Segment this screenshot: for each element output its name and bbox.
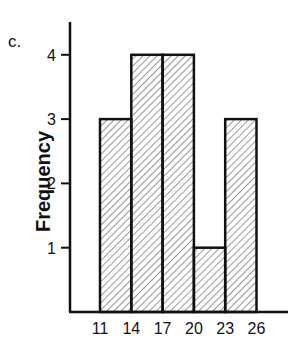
y-tick-label: 2 — [47, 175, 56, 192]
x-tick-label: 11 — [92, 320, 109, 337]
x-tick-label: 17 — [154, 320, 172, 337]
histogram-bar — [194, 248, 225, 312]
histogram-chart: 1234111417202326 — [0, 0, 302, 342]
x-tick-label: 23 — [216, 320, 234, 337]
y-tick-label: 4 — [47, 47, 56, 64]
x-tick-label: 14 — [122, 320, 140, 337]
y-tick-label: 3 — [47, 111, 56, 128]
histogram-bar — [131, 55, 162, 312]
y-tick-label: 1 — [47, 240, 56, 257]
histogram-bar — [225, 119, 256, 312]
histogram-bar — [163, 55, 194, 312]
histogram-bar — [100, 119, 131, 312]
x-tick-label: 26 — [248, 320, 266, 337]
x-tick-label: 20 — [185, 320, 203, 337]
